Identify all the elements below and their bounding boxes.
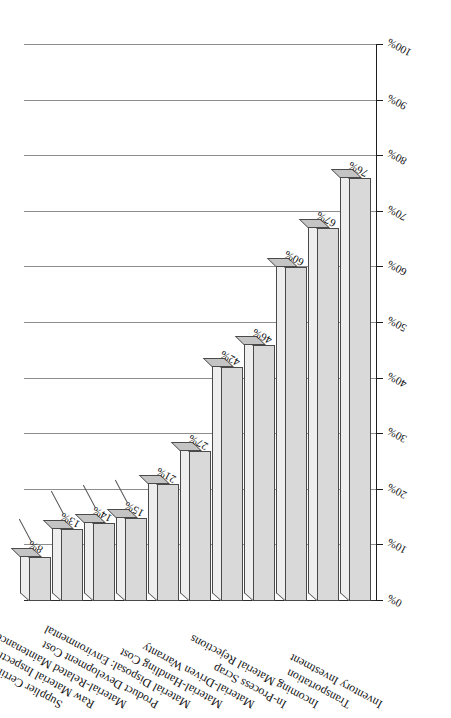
tick-label-0%: 0% <box>385 592 431 624</box>
tick-label-30%: 30% <box>385 426 431 458</box>
tick-label-40%: 40% <box>385 370 431 402</box>
bar-face <box>61 529 83 601</box>
tick-label-50%: 50% <box>385 314 431 346</box>
bar-4 <box>253 334 275 601</box>
bar-face <box>285 267 307 601</box>
bar-chart: 76%67%60%46%42%27%21%15%14%13%8% 0%10%20… <box>6 9 446 709</box>
tick-label-90%: 90% <box>385 92 431 124</box>
bar-face <box>29 557 51 601</box>
tick-label-60%: 60% <box>385 259 431 291</box>
bar-2 <box>317 217 339 601</box>
tick-label-10%: 10% <box>385 537 431 569</box>
bar-face <box>349 178 371 601</box>
bar-face <box>125 518 147 601</box>
rotated-figure-wrapper: 76%67%60%46%42%27%21%15%14%13%8% 0%10%20… <box>6 9 446 709</box>
bar-face <box>221 367 243 601</box>
leader-line-11 <box>18 518 31 541</box>
axis-floor-line <box>376 45 377 601</box>
tick-label-70%: 70% <box>385 203 431 235</box>
bar-6 <box>189 440 211 601</box>
bar-5 <box>221 356 243 601</box>
leader-line-8 <box>114 479 127 502</box>
bar-series: 76%67%60%46%42%27%21%15%14%13%8% <box>24 45 376 601</box>
chart-page: 76%67%60%46%42%27%21%15%14%13%8% 0%10%20… <box>0 0 451 718</box>
bar-3 <box>285 256 307 601</box>
tick-label-100%: 100% <box>385 36 431 68</box>
bar-top-face <box>308 220 317 601</box>
bar-top-face <box>212 359 221 601</box>
plot-area: 76%67%60%46%42%27%21%15%14%13%8% <box>24 45 376 601</box>
leader-line-10 <box>50 491 63 514</box>
tick-label-80%: 80% <box>385 148 431 180</box>
bar-face <box>253 345 275 601</box>
bar-top-face <box>148 476 157 601</box>
bar-7 <box>157 473 179 601</box>
bar-top-face <box>180 443 189 601</box>
bar-top-face <box>276 259 285 601</box>
bar-face <box>317 228 339 601</box>
bar-face <box>189 451 211 601</box>
bar-face <box>157 484 179 601</box>
leader-line-9 <box>82 485 95 508</box>
tick-label-20%: 20% <box>385 481 431 513</box>
